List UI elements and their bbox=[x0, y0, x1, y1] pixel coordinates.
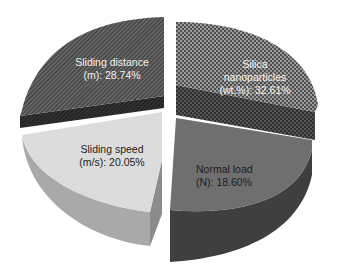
slice-normal-load bbox=[170, 118, 312, 262]
label-sliding-distance: Sliding distance (m): 28.74% bbox=[62, 56, 162, 82]
label-line: Normal load bbox=[196, 163, 258, 176]
label-line: Silica bbox=[205, 58, 305, 71]
label-sliding-speed: Sliding speed (m/s): 20.05% bbox=[62, 143, 162, 169]
label-line: (m): 28.74% bbox=[62, 69, 162, 82]
label-line: (N): 18.60% bbox=[196, 176, 258, 189]
label-line: (wt.%): 32.61% bbox=[205, 84, 305, 97]
slice-sliding-speed bbox=[22, 112, 162, 246]
label-line: (m/s): 20.05% bbox=[62, 156, 162, 169]
label-line: Sliding speed bbox=[62, 143, 162, 156]
label-silica: Silica nanoparticles (wt.%): 32.61% bbox=[205, 58, 305, 97]
pie-chart bbox=[0, 0, 338, 275]
label-line: nanoparticles bbox=[205, 71, 305, 84]
label-normal-load: Normal load (N): 18.60% bbox=[196, 163, 258, 189]
label-line: Sliding distance bbox=[62, 56, 162, 69]
